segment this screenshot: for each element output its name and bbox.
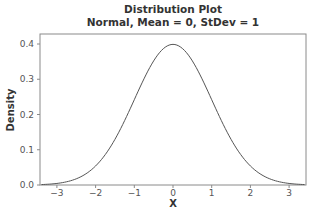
x-tick-label: 2 bbox=[248, 188, 254, 198]
y-tick-label: 0.3 bbox=[20, 74, 34, 84]
chart-title: Distribution Plot bbox=[124, 3, 222, 15]
y-tick-label: 0.0 bbox=[20, 180, 35, 190]
y-axis-label: Density bbox=[5, 88, 16, 131]
x-tick-label: 3 bbox=[286, 188, 292, 198]
x-tick-label: 0 bbox=[170, 188, 176, 198]
x-axis: −3−2−10123 bbox=[50, 185, 292, 198]
y-tick-label: 0.2 bbox=[20, 110, 34, 120]
x-tick-label: 1 bbox=[209, 188, 215, 198]
density-curve bbox=[41, 44, 304, 184]
x-tick-label: −1 bbox=[128, 188, 141, 198]
y-axis: 0.00.10.20.30.4 bbox=[20, 39, 40, 190]
chart-subtitle: Normal, Mean = 0, StDev = 1 bbox=[87, 16, 259, 28]
x-tick-label: −2 bbox=[89, 188, 102, 198]
x-axis-label: X bbox=[169, 198, 177, 209]
x-tick-label: −3 bbox=[50, 188, 63, 198]
distribution-plot: Distribution Plot Normal, Mean = 0, StDe… bbox=[0, 0, 317, 216]
y-tick-label: 0.1 bbox=[20, 145, 34, 155]
y-tick-label: 0.4 bbox=[20, 39, 35, 49]
plot-frame bbox=[40, 34, 306, 185]
